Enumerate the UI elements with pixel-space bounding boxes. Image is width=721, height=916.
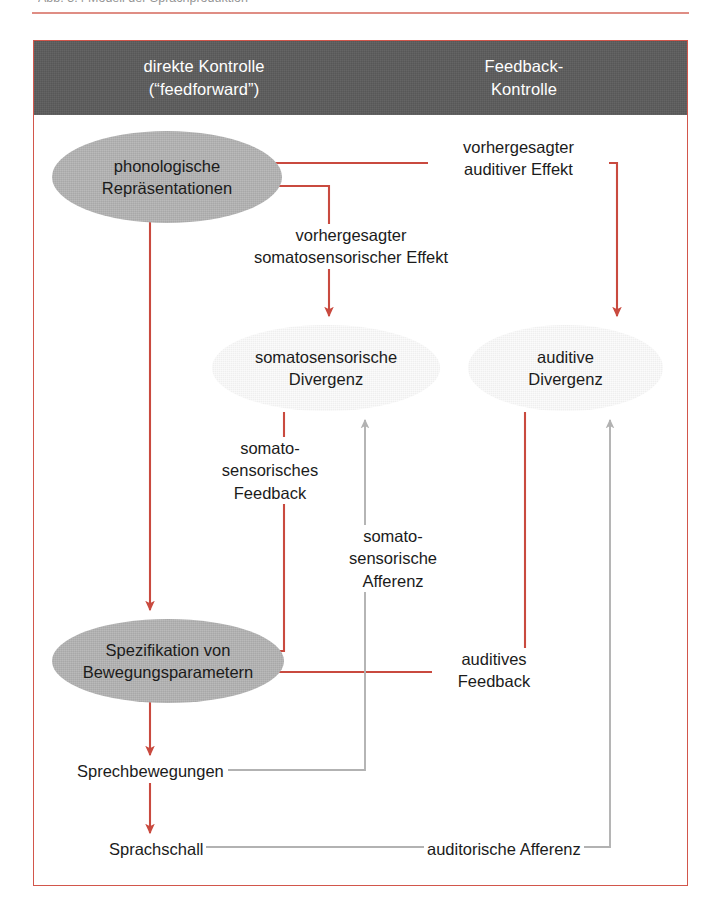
node-audidiv-line1: auditive (528, 346, 602, 368)
edge-label-pred-som-line1: vorhergesagter (236, 224, 466, 246)
node-somdiv-line1: somatosensorische (255, 346, 397, 368)
edge-label-auditives-feedback: auditives Feedback (432, 648, 556, 693)
node-spez-line1: Spezifikation von (83, 639, 254, 661)
edge-label-som-afferenz-line3: Afferenz (333, 570, 453, 592)
edge-label-vorhergesagter-auditiver-effekt: vorhergesagter auditiver Effekt (428, 136, 609, 181)
edge-label-somatosensorisches-feedback: somato- sensorisches Feedback (208, 437, 332, 504)
edge-label-som-feedback-line1: somato- (211, 437, 329, 459)
edge-label-som-feedback-line3: Feedback (211, 482, 329, 504)
edge-label-pred-som-line2: somatosensorischer Effekt (236, 246, 466, 268)
node-phonologische-repraesentationen[interactable]: phonologische Repräsentationen (52, 131, 282, 223)
node-somdiv-line2: Divergenz (255, 368, 397, 390)
edge-label-vorhergesagter-somatosensorischer-effekt: vorhergesagter somatosensorischer Effekt (233, 224, 469, 269)
node-somatosensorische-divergenz[interactable]: somatosensorische Divergenz (212, 325, 440, 411)
figure-page: Abb. 3.4 Modell der Sprachproduktion dir… (0, 0, 721, 916)
figure-header-band: direkte Kontrolle (“feedforward”) Feedba… (34, 41, 687, 115)
header-feedback-line1: Feedback- (424, 55, 624, 78)
edge-label-som-afferenz-line2: sensorische (333, 547, 453, 569)
edge-label-som-feedback-line2: sensorisches (211, 459, 329, 481)
edge-label-pred-aud-line1: vorhergesagter (431, 136, 606, 158)
caption-rule (32, 12, 689, 14)
node-auditive-divergenz[interactable]: auditive Divergenz (468, 325, 663, 411)
edge-label-auditorische-afferenz: auditorische Afferenz (424, 838, 584, 860)
terminal-label-sprachschall: Sprachschall (106, 838, 206, 860)
node-spez-line2: Bewegungsparametern (83, 661, 254, 683)
header-column-feedback: Feedback- Kontrolle (424, 55, 624, 102)
edge-label-aud-feedback-line1: auditives (435, 648, 553, 670)
node-spezifikation-bewegungsparameter[interactable]: Spezifikation von Bewegungsparametern (52, 619, 284, 703)
edge-label-pred-aud-line2: auditiver Effekt (431, 158, 606, 180)
header-feedforward-line2: (“feedforward”) (89, 78, 319, 101)
edge-label-som-afferenz-line1: somato- (333, 525, 453, 547)
header-feedback-line2: Kontrolle (424, 78, 624, 101)
node-phono-line1: phonologische (102, 155, 232, 177)
page-caption-text: Abb. 3.4 Modell der Sprachproduktion (38, 0, 248, 5)
node-phono-line2: Repräsentationen (102, 177, 232, 199)
node-audidiv-line2: Divergenz (528, 368, 602, 390)
edge-label-somatosensorische-afferenz: somato- sensorische Afferenz (330, 525, 456, 592)
header-column-feedforward: direkte Kontrolle (“feedforward”) (89, 55, 319, 102)
header-feedforward-line1: direkte Kontrolle (89, 55, 319, 78)
edge-label-aud-feedback-line2: Feedback (435, 670, 553, 692)
terminal-label-sprechbewegungen: Sprechbewegungen (74, 760, 227, 782)
